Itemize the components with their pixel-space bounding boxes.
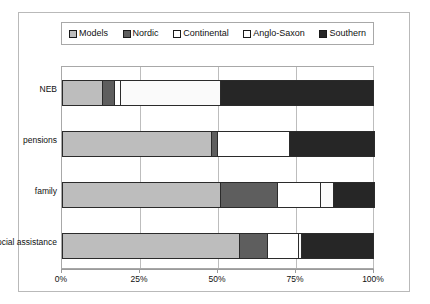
legend-swatch-models	[69, 30, 77, 38]
legend-item-models[interactable]: Models	[69, 29, 108, 38]
legend-label-models: Models	[79, 29, 108, 38]
bar-segment-neb-nordic	[103, 80, 116, 106]
chart-legend: Models Nordic Continental Anglo-Saxon So…	[61, 22, 374, 45]
bar-segment-neb-southern	[221, 80, 374, 106]
x-axis-tick-0	[61, 269, 62, 273]
chart-container: Models Nordic Continental Anglo-Saxon So…	[0, 0, 430, 304]
bar-segment-family-nordic	[221, 182, 277, 208]
bar-segment-family-southern	[334, 182, 375, 208]
legend-label-southern: Southern	[329, 29, 366, 38]
x-axis-tick-100	[373, 269, 374, 273]
plot-area	[61, 66, 374, 269]
y-axis-label-neb: NEB	[40, 85, 57, 94]
table-row[interactable]	[62, 182, 375, 208]
y-axis-label-family: family	[35, 187, 57, 196]
legend-item-continental[interactable]: Continental	[173, 29, 229, 38]
bar-segment-pensions-southern	[290, 131, 374, 157]
legend-item-southern[interactable]: Southern	[319, 29, 366, 38]
bar-segment-social-southern	[302, 233, 374, 259]
y-axis-label-pensions: pensions	[23, 136, 57, 145]
x-axis-tick-50	[217, 269, 218, 273]
x-axis-label-0: 0%	[55, 275, 67, 284]
legend-swatch-southern	[319, 30, 327, 38]
legend-label-continental: Continental	[183, 29, 229, 38]
bar-segment-family-continental	[278, 182, 322, 208]
bar-segment-social-continental	[268, 233, 299, 259]
legend-label-nordic: Nordic	[133, 29, 159, 38]
table-row[interactable]	[62, 80, 374, 106]
bar-segment-pensions-continental	[218, 131, 290, 157]
bar-segment-neb-models	[62, 80, 103, 106]
x-axis-label-50: 50%	[208, 275, 225, 284]
legend-swatch-anglosaxon	[243, 30, 251, 38]
x-axis-tick-25	[139, 269, 140, 273]
legend-item-anglo-saxon[interactable]: Anglo-Saxon	[243, 29, 305, 38]
bar-segment-social-models	[62, 233, 240, 259]
x-axis-label-25: 25%	[130, 275, 147, 284]
table-row[interactable]	[62, 233, 374, 259]
legend-label-anglo-saxon: Anglo-Saxon	[253, 29, 305, 38]
table-row[interactable]	[62, 131, 375, 157]
bar-segment-social-nordic	[240, 233, 268, 259]
bar-segment-family-models	[62, 182, 221, 208]
y-axis-label-social-assistance: social assistance	[0, 238, 57, 247]
x-axis-label-75: 75%	[286, 275, 303, 284]
legend-swatch-nordic	[123, 30, 131, 38]
bar-segment-neb-anglosaxon	[121, 80, 221, 106]
legend-item-nordic[interactable]: Nordic	[123, 29, 159, 38]
x-axis-label-100: 100%	[362, 275, 384, 284]
bar-segment-family-anglosaxon	[321, 182, 334, 208]
y-axis-labels: NEB pensions family social assistance	[0, 66, 57, 269]
x-axis-tick-75	[295, 269, 296, 273]
bar-segment-pensions-models	[62, 131, 212, 157]
legend-swatch-continental	[173, 30, 181, 38]
